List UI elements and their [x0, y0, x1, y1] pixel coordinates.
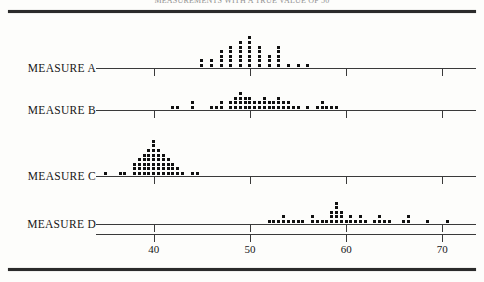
data-dot: [229, 106, 232, 109]
data-dot: [277, 64, 280, 67]
data-dot: [325, 106, 328, 109]
data-dot: [378, 220, 381, 223]
data-dot: [229, 101, 232, 104]
data-dot: [248, 106, 251, 109]
data-dot: [147, 167, 150, 170]
data-dot: [157, 158, 160, 161]
data-dot: [335, 202, 338, 205]
data-dot: [426, 220, 429, 223]
data-dot: [335, 215, 338, 218]
axis-tick-40: [154, 177, 155, 184]
data-dot: [282, 215, 285, 218]
data-dot: [167, 172, 170, 175]
axis-tick-70: [442, 111, 443, 118]
data-dot: [239, 101, 242, 104]
data-dot: [147, 154, 150, 157]
axis-tick-60: [346, 69, 347, 76]
axis-tick-70: [442, 225, 443, 232]
data-dot: [143, 158, 146, 161]
data-dot: [234, 97, 237, 100]
data-dot: [277, 106, 280, 109]
data-dot: [253, 106, 256, 109]
data-dot: [210, 106, 213, 109]
data-dot: [200, 59, 203, 62]
data-dot: [248, 41, 251, 44]
data-dot: [210, 59, 213, 62]
data-dot: [407, 215, 410, 218]
data-dot: [297, 64, 300, 67]
data-dot: [220, 106, 223, 109]
data-dot: [311, 220, 314, 223]
data-dot: [239, 50, 242, 53]
row-axis-measure-a: [96, 68, 476, 69]
data-dot: [239, 59, 242, 62]
data-dot: [143, 154, 146, 157]
data-dot: [152, 172, 155, 175]
data-dot: [292, 220, 295, 223]
axis-tick-label-70: 70: [437, 243, 448, 255]
row-label-measure-d: MEASURE D: [27, 218, 96, 230]
data-dot: [229, 46, 232, 49]
data-dot: [335, 106, 338, 109]
data-dot: [181, 172, 184, 175]
data-dot: [167, 158, 170, 161]
data-dot: [176, 172, 179, 175]
data-dot: [176, 106, 179, 109]
data-dot: [268, 59, 271, 62]
data-dot: [220, 101, 223, 104]
data-dot: [157, 163, 160, 166]
data-dot: [229, 59, 232, 62]
data-dot: [138, 172, 141, 175]
axis-tick-60: [346, 111, 347, 118]
top-rule: [8, 10, 476, 13]
data-dot: [248, 46, 251, 49]
data-dot: [359, 215, 362, 218]
data-dot: [330, 220, 333, 223]
axis-tick-70: [442, 69, 443, 76]
figure-caption: MEASUREMENTS WITH A TRUE VALUE OF 50: [0, 0, 484, 5]
data-dot: [152, 158, 155, 161]
data-dot: [277, 101, 280, 104]
data-dot: [248, 36, 251, 39]
data-dot: [248, 101, 251, 104]
data-dot: [133, 163, 136, 166]
data-dot: [282, 101, 285, 104]
data-dot: [287, 106, 290, 109]
axis-tick-40: [154, 69, 155, 76]
data-dot: [340, 211, 343, 214]
data-dot: [335, 206, 338, 209]
data-dot: [215, 106, 218, 109]
data-dot: [330, 215, 333, 218]
data-dot: [147, 158, 150, 161]
data-dot: [191, 172, 194, 175]
data-dot: [282, 220, 285, 223]
data-dot: [220, 55, 223, 58]
data-dot: [196, 172, 199, 175]
data-dot: [297, 106, 300, 109]
data-dot: [152, 144, 155, 147]
data-dot: [191, 106, 194, 109]
axis-tick-50: [250, 235, 251, 242]
data-dot: [277, 220, 280, 223]
data-dot: [287, 220, 290, 223]
data-dot: [258, 46, 261, 49]
data-dot: [123, 172, 126, 175]
data-dot: [268, 101, 271, 104]
axis-tick-label-60: 60: [341, 243, 352, 255]
data-dot: [239, 92, 242, 95]
data-dot: [152, 140, 155, 143]
data-dot: [167, 167, 170, 170]
data-dot: [239, 64, 242, 67]
data-dot: [133, 172, 136, 175]
row-axis-measure-c: [96, 176, 476, 177]
data-dot: [335, 220, 338, 223]
data-dot: [373, 220, 376, 223]
data-dot: [306, 64, 309, 67]
data-dot: [335, 211, 338, 214]
data-dot: [258, 50, 261, 53]
data-dot: [171, 163, 174, 166]
data-dot: [282, 106, 285, 109]
data-dot: [162, 163, 165, 166]
data-dot: [234, 101, 237, 104]
data-dot: [268, 106, 271, 109]
